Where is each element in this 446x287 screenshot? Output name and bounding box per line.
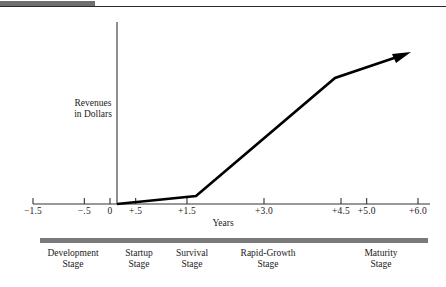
x-tick-label: +3.0: [255, 206, 273, 217]
x-tick-label: 0: [108, 206, 113, 217]
stage-label-line1: Survival: [176, 248, 208, 258]
stage-label: DevelopmentStage: [47, 248, 98, 269]
stage-label-line2: Stage: [47, 259, 98, 270]
revenue-lifecycle-chart: [0, 0, 446, 287]
revenue-curve-path: [117, 56, 400, 204]
x-tick-label: +1.5: [178, 206, 196, 217]
arrow-head-icon: [392, 52, 411, 63]
stage-label-line2: Stage: [364, 259, 397, 270]
x-axis-title: Years: [212, 218, 233, 229]
revenue-curve: [117, 52, 411, 204]
y-axis-label-line2: in Dollars: [74, 109, 112, 119]
stage-label-line1: Startup: [125, 248, 152, 258]
stage-label: StartupStage: [125, 248, 152, 269]
x-tick-label: −1.5: [24, 206, 42, 217]
y-axis-label: Revenues in Dollars: [74, 98, 112, 119]
x-tick-label: +.5: [129, 206, 142, 217]
x-tick-label: +5.0: [358, 206, 376, 217]
stage-label-line1: Maturity: [364, 248, 397, 258]
stage-label: MaturityStage: [364, 248, 397, 269]
stage-timeline-bar: [40, 238, 428, 243]
x-axis-ticks: [33, 198, 418, 204]
stage-label-line1: Development: [47, 248, 98, 258]
figure-canvas: Revenues in Dollars −1.5−.50+.5+1.5+3.0+…: [0, 0, 446, 287]
stage-label: Rapid-GrowthStage: [241, 248, 296, 269]
x-tick-label: −.5: [78, 206, 91, 217]
stage-label-line2: Stage: [241, 259, 296, 270]
stage-label-line2: Stage: [125, 259, 152, 270]
x-tick-label: +6.0: [409, 206, 427, 217]
x-tick-label: +4.5: [332, 206, 350, 217]
stage-label-line2: Stage: [176, 259, 208, 270]
stage-label: SurvivalStage: [176, 248, 208, 269]
stage-label-line1: Rapid-Growth: [241, 248, 296, 258]
y-axis-label-line1: Revenues: [75, 98, 112, 108]
